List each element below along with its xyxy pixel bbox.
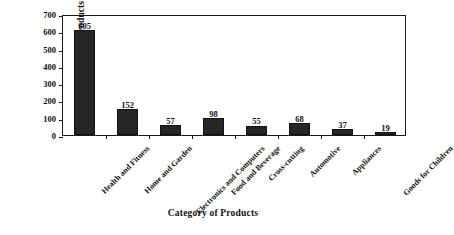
- y-tick-label: 500: [43, 45, 56, 55]
- x-tick-mark: [321, 135, 322, 139]
- y-tick-mark: [59, 51, 63, 52]
- y-tick-label: 100: [43, 114, 56, 124]
- bar-value-label: 605: [65, 21, 105, 31]
- bar: [289, 123, 310, 135]
- x-tick-label: Appliances: [350, 144, 383, 177]
- x-tick-label: Goods for Children: [401, 144, 454, 197]
- x-tick-label: Automotive: [307, 144, 342, 179]
- y-tick-label: 300: [43, 79, 56, 89]
- y-tick-label: 600: [43, 27, 56, 37]
- bar-value-label: 68: [280, 114, 320, 124]
- bar-value-label: 98: [194, 109, 234, 119]
- y-tick-mark: [59, 16, 63, 17]
- x-tick-mark: [278, 135, 279, 139]
- y-tick-label: 0: [52, 131, 56, 141]
- bar-value-label: 57: [151, 116, 191, 126]
- y-tick-label: 200: [43, 96, 56, 106]
- x-axis-title: Category of Products: [0, 208, 426, 218]
- plot-area: Number of Products 010020030040050060070…: [62, 15, 406, 136]
- bar-value-label: 37: [323, 120, 363, 130]
- x-tick-mark: [149, 135, 150, 139]
- y-tick-mark: [59, 85, 63, 86]
- bar-value-label: 55: [237, 116, 277, 126]
- bar: [160, 125, 181, 135]
- y-tick-label: 700: [43, 10, 56, 20]
- y-tick-mark: [59, 137, 63, 138]
- bar: [74, 30, 95, 135]
- y-tick-mark: [59, 68, 63, 69]
- x-tick-mark: [192, 135, 193, 139]
- y-tick-mark: [59, 102, 63, 103]
- x-tick-mark: [106, 135, 107, 139]
- bar: [117, 109, 138, 135]
- x-tick-mark: [235, 135, 236, 139]
- x-tick-label: Electronics and Computers: [194, 144, 266, 216]
- bar: [246, 126, 267, 136]
- y-tick-mark: [59, 120, 63, 121]
- bar-value-label: 19: [366, 123, 406, 133]
- bar-value-label: 152: [108, 100, 148, 110]
- y-tick-mark: [59, 33, 63, 34]
- x-tick-mark: [364, 135, 365, 139]
- bar: [203, 118, 224, 135]
- y-tick-label: 400: [43, 62, 56, 72]
